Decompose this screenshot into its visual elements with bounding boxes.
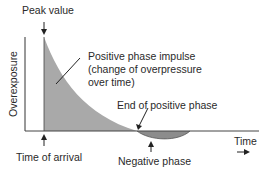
end-positive-phase-label: End of positive phase [117,99,217,111]
x-axis-label: Time [234,135,257,147]
negative-phase-label: Negative phase [118,155,191,167]
peak-value-label: Peak value [22,4,74,16]
negative-phase-area [137,131,190,139]
negative-arrow-icon [148,141,154,152]
positive-phase-label-3: over time) [88,76,135,88]
positive-phase-label-2: (change of overpressure [88,63,202,75]
time-arrow-icon [237,149,250,155]
end-positive-arrow-icon [136,108,148,130]
arrival-arrow-icon [41,134,47,146]
y-axis-label: Overexposure [7,49,19,119]
positive-phase-label-1: Positive phase impulse [88,50,195,62]
time-of-arrival-label: Time of arrival [16,151,82,163]
peak-arrow-icon [41,22,47,35]
